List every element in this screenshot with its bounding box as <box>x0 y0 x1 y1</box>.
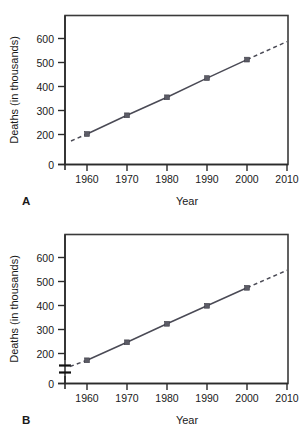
data-markers-a <box>85 57 250 136</box>
x-axis-title-a: Year <box>176 195 199 207</box>
y-tick-label-400: 400 <box>36 300 54 312</box>
x-tick-label-2000: 2000 <box>235 173 259 185</box>
chart-b-svg: 0 200 300 400 500 600 1960 1970 1980 199… <box>0 219 304 437</box>
data-point-1960 <box>85 358 90 363</box>
chart-a-svg: 0 200 300 400 500 600 1960 1970 1980 199… <box>0 0 304 218</box>
data-point-2000 <box>245 285 250 290</box>
data-point-1990 <box>205 76 210 81</box>
x-ticks-a <box>87 165 287 172</box>
x-tick-label-2010: 2010 <box>275 392 299 404</box>
y-tick-label-300: 300 <box>36 105 54 117</box>
data-point-1970 <box>125 340 130 345</box>
y-ticks-a <box>58 39 65 165</box>
x-tick-label-1970: 1970 <box>115 173 139 185</box>
x-tick-label-1970: 1970 <box>115 392 139 404</box>
y-axis-title-b: Deaths (in thousands) <box>8 255 20 363</box>
y-axis-title-a: Deaths (in thousands) <box>8 36 20 144</box>
x-tick-label-1960: 1960 <box>75 392 99 404</box>
panel-letter-a: A <box>22 195 30 207</box>
x-tick-label-1980: 1980 <box>155 173 179 185</box>
data-markers-b <box>85 285 250 362</box>
x-ticks-b <box>87 384 287 391</box>
y-tick-label-500: 500 <box>36 276 54 288</box>
data-point-2000 <box>245 57 250 62</box>
chart-panel-a: 0 200 300 400 500 600 1960 1970 1980 199… <box>0 0 304 218</box>
y-tick-label-200: 200 <box>36 129 54 141</box>
data-point-1980 <box>165 321 170 326</box>
x-tick-label-2000: 2000 <box>235 392 259 404</box>
x-tick-label-1960: 1960 <box>75 173 99 185</box>
data-point-1970 <box>125 113 130 118</box>
plot-area-frame-b <box>65 235 288 384</box>
data-extrapolation-right-a <box>247 42 287 60</box>
data-extrapolation-right-b <box>247 270 287 288</box>
x-axis-title-b: Year <box>176 414 199 426</box>
y-tick-label-600: 600 <box>36 33 54 45</box>
y-tick-label-200: 200 <box>36 348 54 360</box>
x-tick-label-1990: 1990 <box>195 173 219 185</box>
y-tick-label-600: 600 <box>36 252 54 264</box>
x-tick-label-1980: 1980 <box>155 392 179 404</box>
y-tick-label-300: 300 <box>36 324 54 336</box>
chart-panel-b: 0 200 300 400 500 600 1960 1970 1980 199… <box>0 219 304 437</box>
plot-area-frame-a <box>65 16 288 165</box>
x-tick-label-2010: 2010 <box>275 173 299 185</box>
panel-letter-b: B <box>22 414 30 426</box>
y-tick-label-500: 500 <box>36 57 54 69</box>
y-tick-label-400: 400 <box>36 81 54 93</box>
x-tick-label-1990: 1990 <box>195 392 219 404</box>
data-point-1980 <box>165 95 170 100</box>
data-point-1990 <box>205 303 210 308</box>
data-point-1960 <box>85 132 90 137</box>
y-tick-label-0: 0 <box>48 378 54 390</box>
y-tick-label-0: 0 <box>48 159 54 171</box>
